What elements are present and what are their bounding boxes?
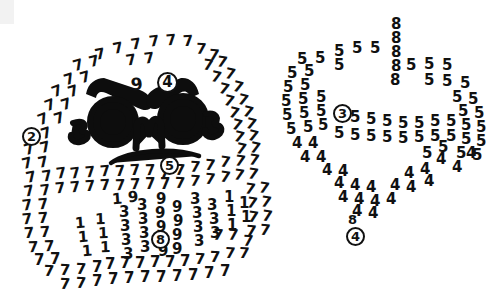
face-digit: 7 [219, 169, 231, 185]
heart-digit: 5 [424, 73, 434, 88]
heart-digit: 4 [452, 160, 462, 175]
face-digit: 1 [111, 192, 122, 208]
circled-marker-4[interactable]: 4 [346, 227, 365, 246]
heart-digit: 8 [390, 73, 400, 88]
heart-digit: 5 [370, 41, 380, 56]
heart-digit: 5 [398, 131, 408, 146]
heart-digit: 4 [386, 192, 396, 207]
face-digit: 7 [145, 177, 155, 192]
nose-icon [136, 119, 162, 148]
face-digit: 7 [76, 276, 87, 291]
heart-digit: 4 [424, 174, 434, 189]
circled-marker-2[interactable]: 2 [22, 127, 41, 146]
heart-digit: 5 [382, 114, 392, 129]
face-digit: 7 [44, 264, 55, 279]
heart-digit: 5 [442, 74, 452, 89]
face-digit: 7 [92, 274, 102, 289]
face-digit: 7 [125, 52, 138, 69]
face-digit: 7 [140, 270, 150, 285]
heart-digit: 5 [406, 58, 416, 73]
heart-digit: 4 [406, 180, 416, 195]
face-digit: 7 [78, 69, 92, 86]
circled-marker-3[interactable]: 3 [333, 104, 352, 123]
face-digit: 1 [227, 218, 237, 233]
face-digit: 7 [165, 32, 177, 48]
face-digit: 7 [34, 253, 44, 268]
heart-digit: 5 [424, 57, 434, 72]
heart-digit: 5 [366, 129, 376, 144]
left-eye-icon [90, 99, 136, 145]
left-cheek-mark-icon [71, 122, 88, 142]
face-digit: 9 [172, 242, 182, 257]
heart-digit: 5 [334, 58, 344, 73]
face-digit: 7 [224, 246, 235, 262]
heart-digit: 5 [315, 51, 325, 66]
face-digit: 7 [108, 272, 118, 287]
heart-digit: 5 [438, 140, 448, 155]
face-digit: 1 [241, 210, 251, 225]
face-digit: 7 [84, 179, 95, 195]
face-digit: 3 [210, 226, 220, 241]
heart-digit: 5 [442, 58, 452, 73]
face-digit: 7 [233, 167, 246, 184]
face-digit: 7 [204, 171, 216, 187]
face-digit: 7 [156, 270, 166, 285]
face-digit: 7 [259, 222, 271, 238]
heart-digit: 5 [422, 146, 432, 161]
face-digit: 7 [54, 180, 66, 196]
heart-digit: 5 [352, 41, 362, 56]
face-digit: 1 [81, 244, 92, 260]
face-digit: 7 [182, 34, 193, 50]
circled-marker-4[interactable]: 4 [157, 72, 178, 93]
face-digit: 7 [148, 33, 160, 49]
face-digit: 7 [204, 266, 214, 281]
heart-digit: 5 [334, 126, 344, 141]
face-digit: 9 [130, 75, 144, 93]
face-digit: 7 [188, 268, 198, 283]
heart-digit: 5 [303, 120, 313, 135]
face-digit: 7 [172, 269, 182, 284]
face-digit: 7 [112, 40, 125, 57]
face-digit: 7 [143, 50, 155, 66]
corner-smudge [0, 0, 14, 24]
heart-digit: 8 [348, 213, 357, 226]
face-digit: 7 [220, 264, 230, 279]
heart-digit: 4 [300, 150, 310, 165]
right-cheek-mark-icon [205, 114, 222, 138]
heart-digit: 4 [322, 163, 332, 178]
heart-digit: 4 [368, 206, 378, 221]
face-digit: 7 [99, 178, 110, 194]
circled-marker-8[interactable]: 8 [151, 230, 170, 249]
heart-digit: 5 [318, 118, 328, 133]
heart-digit: 5 [382, 130, 392, 145]
face-digit: 3 [140, 240, 150, 255]
circled-marker-5[interactable]: 5 [160, 156, 179, 175]
right-pupil-icon [170, 106, 196, 132]
heart-digit: 5 [366, 112, 376, 127]
face-digit: 7 [60, 277, 71, 292]
artwork-canvas: 7777777777777777777777777777777777777777… [0, 0, 493, 298]
heart-digit: 4 [338, 190, 348, 205]
face-digit: 7 [175, 176, 186, 191]
face-digit: 3 [123, 247, 133, 262]
face-digit: 7 [69, 179, 81, 195]
face-digit: 7 [189, 174, 200, 190]
heart-digit: 5 [350, 128, 360, 143]
face-digit: 7 [124, 271, 134, 286]
right-eye-icon [160, 96, 206, 142]
heart-digit: 5 [456, 146, 466, 161]
face-digit: 7 [238, 246, 249, 262]
face-digit: 9 [127, 190, 138, 206]
face-digit: 3 [194, 234, 204, 249]
heart-digit: 5 [472, 148, 482, 163]
left-pupil-icon [100, 109, 126, 135]
heart-digit: 5 [414, 130, 424, 145]
face-digit: 1 [100, 240, 111, 255]
